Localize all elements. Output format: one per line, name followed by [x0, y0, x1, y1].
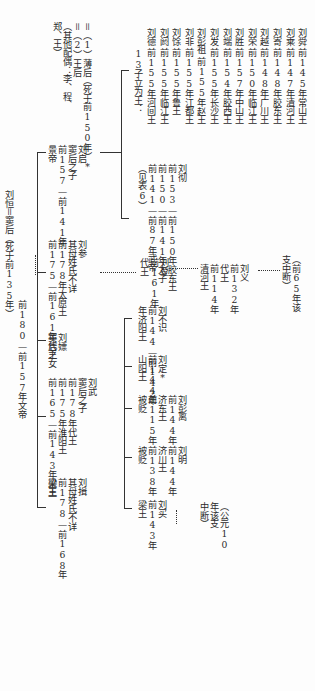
- root-reign: 前180—前157年文帝: [17, 300, 27, 418]
- branch-liuming: [124, 457, 132, 458]
- son-item: 刘发前155年长沙王: [209, 28, 219, 124]
- child-liuyi: 刘揖 其母姓氏不详 前178—前168年 梁王: [47, 478, 87, 579]
- root-line2: 前180—前157年文帝: [17, 300, 27, 418]
- liuyi-connector: [258, 270, 280, 271]
- son-item: 刘荣前150年临江王: [247, 28, 257, 124]
- child-liupiao: 刘嫖 窦后之女: [47, 333, 67, 368]
- liucan-connector: [100, 272, 136, 273]
- liuqi-spouses: ＝（1）薄后（死于前150年）* ＝（2）王后 （其他配偶：李、程、 郑、王）: [52, 22, 92, 171]
- branch-liubushi: [124, 318, 132, 319]
- liuwu-sons-line: [124, 318, 125, 508]
- liuqi-children-line: [121, 70, 122, 218]
- son-item: 刘德前155年河间王: [146, 28, 156, 124]
- liumai-connector: [176, 510, 177, 524]
- son-liupengli: 刘彭离 前144年 济东王 前115年 被贬: [137, 395, 187, 445]
- son-item: 刘端前154年胶西王: [222, 28, 232, 124]
- trunk-line: [37, 152, 38, 508]
- branch-liuche: [121, 218, 129, 219]
- thirteen-sons-heading: 13子立为王：: [133, 48, 143, 113]
- branch-liuyi: [37, 507, 46, 508]
- son-item: 刘胜前157年中山王: [234, 28, 244, 124]
- branch-liuwu: [37, 416, 46, 417]
- branch-liupiao: [37, 340, 46, 341]
- son-item: 刘舜前145年常山王: [297, 28, 307, 124]
- liuyi-dai: 刘义 前132年 代王 前114年 清河王: [199, 264, 249, 314]
- son-item: 刘越前148年广川王: [259, 28, 269, 124]
- son-item: 刘彭祖前155年赵王: [196, 28, 206, 124]
- son-item: 刘非前155年江都王: [184, 28, 194, 124]
- son-item: 刘馀前155年鲁王: [171, 28, 181, 115]
- branch-liuding: [124, 366, 132, 367]
- branch-liupengli: [124, 408, 132, 409]
- son-item: 刘乘前147年清河王: [285, 28, 295, 124]
- liumai-note: （公元10 年该支 中断）: [199, 502, 229, 550]
- son-item: 刘阏前155年临江王: [159, 28, 169, 124]
- son-liuming: 刘明 前144年 济川王 前138年 被贬: [137, 446, 187, 496]
- genealogy-chart: 刘恒＝窦后（死于前135年） 前180—前157年文帝 刘启 窦后之子 前157…: [0, 0, 315, 691]
- branch-liucan: [37, 272, 46, 273]
- liuqi-connector: [100, 152, 121, 153]
- branch-13sons: [121, 70, 129, 71]
- son-liumai: 刘买 前143年 梁王: [137, 500, 167, 550]
- liudeng: 刘登 前161年 代王: [139, 258, 169, 308]
- branch-liuqi: [37, 152, 46, 153]
- liucan-line-end: （前65年该 支中断）: [281, 255, 301, 311]
- root-liuheng: 刘恒＝窦后（死于前135年）: [4, 190, 14, 318]
- son-item: 刘寄前148年胶东王: [272, 28, 282, 124]
- root-spouse-connector: [35, 255, 36, 275]
- branch-liumai: [124, 508, 132, 509]
- liudeng-connector: [172, 268, 198, 269]
- root-line1: 刘恒＝窦后（死于前135年）: [4, 190, 14, 318]
